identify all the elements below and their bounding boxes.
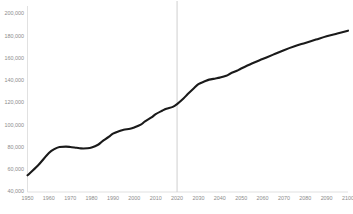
x-tick-label: 2060 — [257, 195, 269, 201]
x-tick-label: 2030 — [192, 195, 204, 201]
y-tick-label: 120,000 — [5, 99, 25, 105]
y-tick-label: 140,000 — [5, 77, 25, 83]
x-tick-label: 2070 — [278, 195, 290, 201]
population-line-series — [28, 31, 349, 176]
y-tick-label: 80,000 — [8, 144, 25, 150]
y-tick-label: 60,000 — [8, 166, 25, 172]
x-tick-label: 2050 — [235, 195, 247, 201]
x-tick-label: 1960 — [43, 195, 55, 201]
x-tick-label: 1970 — [64, 195, 76, 201]
y-tick-label: 160,000 — [5, 55, 25, 61]
x-tick-label: 2080 — [299, 195, 311, 201]
line-chart: 200,000180,000160,000140,000120,000100,0… — [0, 0, 353, 214]
x-tick-label: 1980 — [86, 195, 98, 201]
x-axis-tick-labels: 1950196019701980199020002010202020302040… — [22, 195, 353, 201]
x-tick-label: 2000 — [128, 195, 140, 201]
x-tick-label: 2010 — [150, 195, 162, 201]
y-tick-label: 100,000 — [5, 122, 25, 128]
x-tick-label: 2040 — [214, 195, 226, 201]
x-tick-label: 2090 — [321, 195, 333, 201]
y-tick-label: 180,000 — [5, 33, 25, 39]
y-axis-tick-labels: 200,000180,000160,000140,000120,000100,0… — [5, 10, 25, 194]
y-tick-label: 200,000 — [5, 10, 25, 16]
chart-container: 200,000180,000160,000140,000120,000100,0… — [0, 0, 353, 214]
x-tick-label: 1990 — [107, 195, 119, 201]
x-tick-label: 2020 — [171, 195, 183, 201]
x-tick-label: 1950 — [22, 195, 34, 201]
x-tick-label: 2100 — [342, 195, 353, 201]
